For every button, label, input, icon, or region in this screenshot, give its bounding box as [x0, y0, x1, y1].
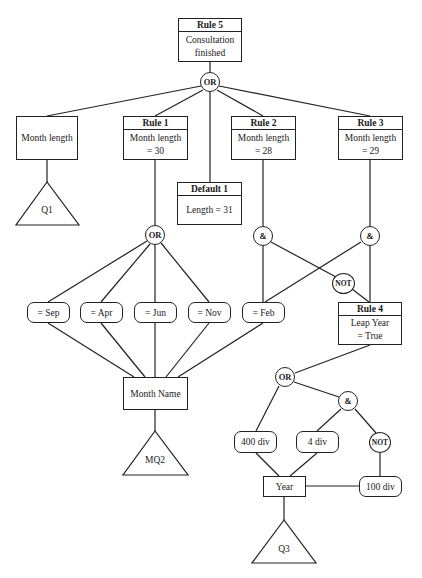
triangle-mq2 [123, 431, 188, 475]
condition-400-div: 400 div [234, 431, 277, 453]
default-1-header: Default 1 [178, 183, 241, 196]
mq2-label: MQ2 [135, 455, 175, 465]
or-month-node: OR [145, 225, 165, 245]
rule-4-body-line2: = True [351, 330, 390, 343]
default-1-body: Length = 31 [186, 204, 233, 217]
rule-5-header: Rule 5 [179, 19, 241, 32]
rule-3-box: Rule 3 Month length= 29 [338, 116, 403, 160]
condition-4-div: 4 div [296, 431, 339, 453]
and-left-node: & [253, 226, 273, 246]
and-leap-node: & [338, 391, 358, 411]
rule-1-body-line2: = 30 [130, 145, 181, 158]
rule-3-body-line1: Month length [345, 132, 396, 145]
rule-1-box: Rule 1 Month length= 30 [123, 116, 188, 160]
condition-100-div: 100 div [359, 476, 402, 497]
rule-2-header: Rule 2 [232, 117, 295, 130]
rule-3-header: Rule 3 [339, 117, 402, 130]
rule-5-body-line1: Consultation [186, 34, 235, 47]
rule-5-body-line2: finished [186, 47, 235, 60]
condition-apr: = Apr [80, 302, 123, 323]
default-1-box: Default 1 Length = 31 [177, 182, 242, 225]
rule-1-header: Rule 1 [124, 117, 187, 130]
or-top-node: OR [200, 72, 220, 92]
triangle-q1 [16, 182, 79, 225]
not-100-node: NOT [369, 432, 391, 453]
triangle-q3 [252, 520, 316, 563]
rule-5-box: Rule 5 Consultationfinished [178, 18, 242, 62]
rule-4-box: Rule 4 Leap Year= True [338, 302, 402, 345]
condition-sep: = Sep [27, 302, 70, 323]
q1-label: Q1 [32, 205, 62, 215]
rule-4-body-line1: Leap Year [351, 317, 390, 330]
month-length-box: Month length [16, 116, 78, 160]
year-box: Year [263, 476, 306, 497]
month-name-box: Month Name [123, 377, 188, 410]
and-right-node: & [360, 226, 380, 246]
rule-2-body-line2: = 28 [238, 145, 289, 158]
condition-jun: = Jun [134, 302, 177, 323]
rule-1-body-line1: Month length [130, 132, 181, 145]
rule-2-body-line1: Month length [238, 132, 289, 145]
q3-label: Q3 [269, 544, 299, 554]
condition-nov: = Nov [188, 302, 231, 323]
rule-4-header: Rule 4 [339, 303, 401, 316]
rule-2-box: Rule 2 Month length= 28 [231, 116, 296, 160]
condition-feb: = Feb [242, 302, 285, 323]
rule-3-body-line2: = 29 [345, 145, 396, 158]
not-leap-node: NOT [332, 273, 355, 294]
or-leap-node: OR [275, 367, 295, 387]
